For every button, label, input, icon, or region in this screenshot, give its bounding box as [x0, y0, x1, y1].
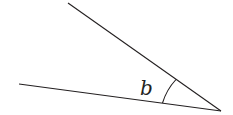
angle-diagram: b	[0, 0, 233, 115]
angle-label: b	[140, 78, 153, 98]
angle-arc	[163, 80, 177, 104]
lower-ray	[19, 84, 221, 111]
angle-figure	[0, 0, 233, 115]
